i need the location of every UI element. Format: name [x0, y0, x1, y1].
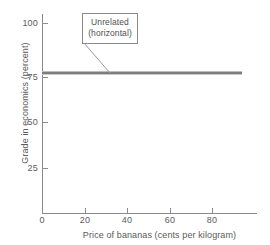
chart-figure: 100 75 50 25 0 20 40 60 80 Grade in econ…: [0, 0, 270, 245]
x-axis-title: Price of bananas (cents per kilogram): [52, 230, 267, 240]
y-tick-mark-25: [43, 168, 48, 169]
y-axis-title: Grade in economics (percent): [20, 18, 30, 188]
series-line-unrelated: [42, 71, 242, 75]
x-axis-line: [42, 213, 257, 214]
x-tick-label-80: 80: [200, 215, 224, 225]
annotation-callout: Unrelated (horizontal): [82, 13, 138, 44]
x-tick-mark-40: [127, 208, 128, 213]
x-tick-mark-60: [170, 208, 171, 213]
x-tick-label-20: 20: [73, 215, 97, 225]
y-tick-mark-100: [43, 23, 48, 24]
annotation-line-1: Unrelated: [85, 17, 135, 28]
y-tick-mark-50: [43, 122, 48, 123]
y-tick-mark-75: [43, 77, 48, 78]
x-tick-mark-80: [212, 208, 213, 213]
y-axis-line: [42, 14, 43, 214]
x-tick-label-60: 60: [158, 215, 182, 225]
x-tick-label-40: 40: [115, 215, 139, 225]
x-tick-mark-20: [85, 208, 86, 213]
x-tick-label-0: 0: [30, 215, 54, 225]
x-tick-mark-0: [42, 208, 43, 213]
annotation-line-2: (horizontal): [85, 28, 135, 39]
